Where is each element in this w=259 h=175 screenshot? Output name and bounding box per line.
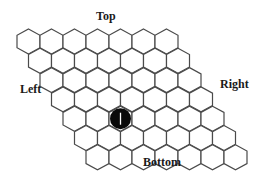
hex-cells: [17, 29, 247, 170]
hex-cell[interactable]: [178, 145, 201, 170]
hex-cell[interactable]: [86, 145, 109, 170]
stone: [110, 108, 131, 129]
hex-cell[interactable]: [224, 145, 247, 170]
label-top: Top: [96, 9, 116, 24]
label-right: Right: [220, 77, 249, 92]
hex-cell[interactable]: [201, 145, 224, 170]
label-left: Left: [20, 82, 41, 97]
label-bottom: Bottom: [143, 155, 181, 170]
stones-layer: [110, 108, 131, 129]
hex-cell[interactable]: [109, 145, 132, 170]
